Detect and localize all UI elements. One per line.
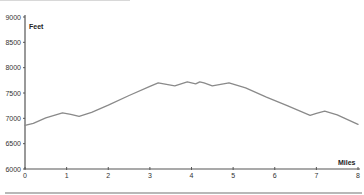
elevation-line [25,82,358,126]
x-tick-label: 8 [356,172,360,179]
x-axis: 012345678 [23,167,360,179]
x-tick-label: 7 [314,172,318,179]
elevation-chart: 6000650070007500800085009000 012345678 F… [0,0,364,195]
y-tick-label: 6500 [5,140,21,147]
x-tick-label: 3 [148,172,152,179]
x-tick-label: 0 [23,172,27,179]
x-tick-label: 6 [273,172,277,179]
y-tick-label: 6000 [5,166,21,173]
y-tick-label: 9000 [5,14,21,21]
bottom-rule [5,192,362,194]
x-tick-label: 5 [231,172,235,179]
y-tick-label: 7500 [5,90,21,97]
x-tick-label: 1 [65,172,69,179]
x-tick-label: 2 [106,172,110,179]
y-axis: 6000650070007500800085009000 [5,14,25,173]
y-tick-label: 8500 [5,39,21,46]
y-tick-label: 8000 [5,64,21,71]
x-axis-title: Miles [338,159,356,166]
y-axis-title: Feet [29,23,44,30]
x-tick-label: 4 [190,172,194,179]
y-tick-label: 7000 [5,115,21,122]
